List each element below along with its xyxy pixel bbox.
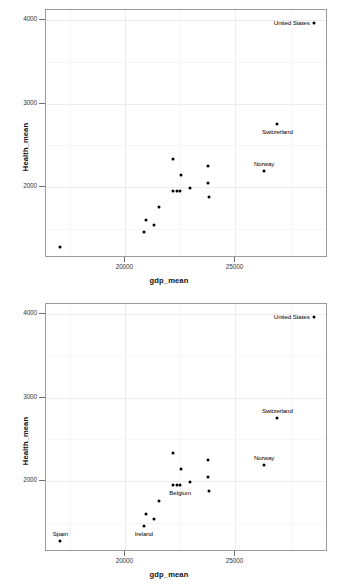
data-point [175,190,178,193]
data-point [312,21,315,24]
data-point [206,165,209,168]
data-point [207,476,210,479]
y-axis-tick-top [39,19,45,20]
data-point-label: Norway [254,455,274,461]
data-point [179,190,182,193]
data-point [207,490,210,493]
x-axis-tick-label-top: 20000 [116,264,133,270]
data-point-label: United States [274,314,310,320]
data-point [158,206,161,209]
y-axis-tick-label-top: 4000 [23,16,37,22]
y-axis-tick-bottom [39,480,45,481]
gridline-vertical-minor [180,10,181,256]
y-axis-tick-bottom [39,397,45,398]
data-point-label: Switzerland [262,408,293,414]
gridline-vertical [125,304,126,550]
y-axis-tick-label-top: 2000 [23,183,37,189]
data-point [276,122,279,125]
data-point [142,231,145,234]
data-point [172,484,175,487]
gridline-horizontal-minor [46,356,326,357]
data-point [179,468,182,471]
data-point-label: United States [274,20,310,26]
data-point [59,540,62,543]
scatter-chart-bottom: United StatesSwitzerlandNorwayBelgiumIre… [0,294,338,588]
gridline-horizontal-minor [46,229,326,230]
data-point [142,525,145,528]
y-axis-tick-bottom [39,313,45,314]
data-point-label: Norway [254,161,274,167]
data-point [145,219,148,222]
data-point [152,518,155,521]
x-axis-tick-label-top: 25000 [226,264,243,270]
x-axis-title-top: gdp_mean [0,276,338,285]
data-point [179,174,182,177]
x-axis-tick-label-bottom: 25000 [226,558,243,564]
gridline-horizontal-minor [46,145,326,146]
data-point [189,187,192,190]
data-point [189,481,192,484]
data-point [207,182,210,185]
gridline-vertical [235,304,236,550]
x-axis-tick-label-bottom: 20000 [116,558,133,564]
gridline-horizontal [46,481,326,482]
plot-panel-top: United StatesSwitzerlandNorway [45,9,327,257]
data-point [312,315,315,318]
data-point [179,484,182,487]
data-point [175,484,178,487]
data-point [152,224,155,227]
gridline-horizontal [46,398,326,399]
gridline-horizontal-minor [46,439,326,440]
y-axis-tick-label-top: 3000 [23,99,37,105]
gridline-horizontal [46,187,326,188]
gridline-horizontal [46,104,326,105]
y-axis-tick-label-bottom: 3000 [23,393,37,399]
data-point-label: Belgium [169,490,191,496]
gridline-vertical [235,10,236,256]
data-point [263,463,266,466]
y-axis-title-top: Health_mean [21,123,30,171]
gridline-vertical-minor [70,10,71,256]
y-axis-tick-label-bottom: 2000 [23,477,37,483]
scatter-chart-top: United StatesSwitzerlandNorway Health_me… [0,0,338,294]
data-point [172,190,175,193]
x-axis-tick-bottom [124,551,125,556]
gridline-vertical [125,10,126,256]
gridline-vertical-minor [180,304,181,550]
x-axis-tick-top [124,257,125,262]
data-point [263,169,266,172]
data-point [158,500,161,503]
y-axis-tick-top [39,103,45,104]
data-point [207,196,210,199]
data-point [276,416,279,419]
gridline-horizontal-minor [46,62,326,63]
data-point-label: Spain [53,531,68,537]
y-axis-tick-label-bottom: 4000 [23,310,37,316]
data-point [206,459,209,462]
data-point [172,452,175,455]
plot-panel-bottom: United StatesSwitzerlandNorwayBelgiumIre… [45,303,327,551]
data-point [59,246,62,249]
gridline-vertical-minor [70,304,71,550]
data-point-label: Switzerland [262,129,293,135]
data-point [145,513,148,516]
y-axis-title-bottom: Health_mean [21,417,30,465]
x-axis-title-bottom: gdp_mean [0,570,338,579]
gridline-horizontal-minor [46,523,326,524]
data-point-label: Ireland [135,531,153,537]
x-axis-tick-top [234,257,235,262]
x-axis-tick-bottom [234,551,235,556]
gridline-vertical-minor [291,304,292,550]
y-axis-tick-top [39,186,45,187]
data-point [172,158,175,161]
